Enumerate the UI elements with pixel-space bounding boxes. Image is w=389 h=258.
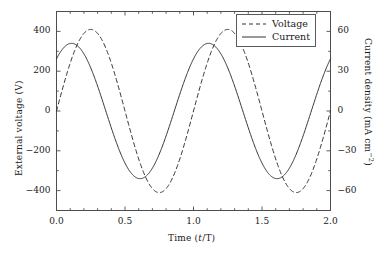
tick-label: 0	[338, 105, 368, 115]
legend-label-voltage: Voltage	[272, 18, 308, 29]
tick-label: −400	[19, 185, 51, 195]
legend-item-current: Current	[241, 30, 310, 43]
series-lines	[57, 29, 331, 192]
tick-label: −30	[338, 145, 368, 155]
tick-label: 0.5	[111, 216, 139, 226]
legend-item-voltage: Voltage	[241, 17, 310, 30]
tick-label: 400	[19, 25, 51, 35]
tick-label: 60	[338, 25, 368, 35]
tick-label: 1.0	[180, 216, 208, 226]
legend-swatch-solid-icon	[241, 32, 267, 42]
legend-swatch-dashed-icon	[241, 19, 267, 29]
tick-label: 1.5	[248, 216, 276, 226]
tick-label: −60	[338, 185, 368, 195]
tick-label: 30	[338, 65, 368, 75]
tick-label: 200	[19, 65, 51, 75]
tick-label: 0.0	[43, 216, 71, 226]
tick-label: −200	[19, 145, 51, 155]
tick-label: 0	[19, 105, 51, 115]
legend: Voltage Current	[236, 14, 316, 47]
chart-figure: External voltage (V) Current density (mA…	[0, 0, 389, 258]
tick-label: 2.0	[317, 216, 345, 226]
legend-label-current: Current	[272, 31, 310, 42]
